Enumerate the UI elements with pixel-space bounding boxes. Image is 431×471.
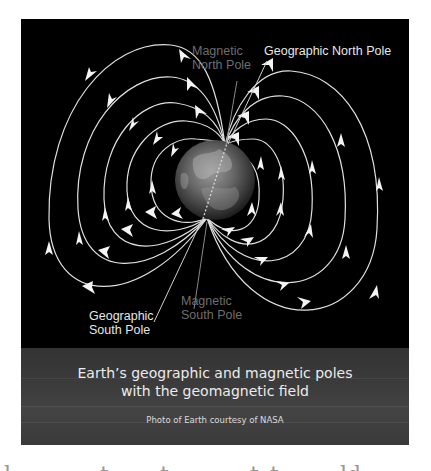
magnetic-north-label: Magnetic North Pole <box>192 44 251 72</box>
geographic-north-label: Geographic North Pole <box>264 44 391 58</box>
caption-title: Earth’s geographic and magnetic poles wi… <box>21 364 409 400</box>
magnetic-north-label-line2: North Pole <box>192 58 251 72</box>
magnetic-south-label: Magnetic South Pole <box>181 294 242 322</box>
geographic-north-label-line1: Geographic North Pole <box>264 44 391 58</box>
photo-credit: Photo of Earth courtesy of NASA <box>21 415 409 425</box>
caption-title-line2: with the geomagnetic field <box>21 382 409 400</box>
geographic-south-label: Geographic South Pole <box>89 309 154 337</box>
magnetic-south-label-line2: South Pole <box>181 308 242 322</box>
geographic-north-pointer <box>228 61 267 144</box>
geographic-south-label-line1: Geographic <box>89 309 154 323</box>
magnetic-south-label-line1: Magnetic <box>181 294 242 308</box>
diagram-panel: Magnetic North Pole Geographic North Pol… <box>21 19 409 348</box>
cropped-text-fragment: l t t t t ld <box>0 464 431 471</box>
caption-title-line1: Earth’s geographic and magnetic poles <box>21 364 409 382</box>
magnetic-north-label-line1: Magnetic <box>192 44 251 58</box>
caption-band: Earth’s geographic and magnetic poles wi… <box>21 348 409 445</box>
earth-globe <box>175 137 255 225</box>
geographic-south-label-line2: South Pole <box>89 323 154 337</box>
